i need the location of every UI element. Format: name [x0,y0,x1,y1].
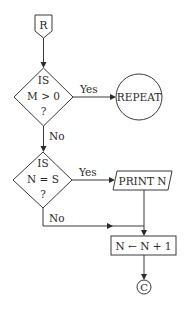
edge-decision2-yes: Yes [72,166,115,183]
start-connector: R [35,15,52,38]
edge-print-to-increment [141,190,147,236]
decision2-line2: N = S [27,173,59,185]
decision2-line3: ? [40,188,46,200]
start-connector-label: R [39,19,48,32]
edge-start-to-decision1 [41,38,47,68]
edge-label-yes: Yes [79,83,98,95]
edge-label-yes: Yes [78,166,97,178]
decision1-line3: ? [41,105,47,117]
decision1-line2: M > 0 [27,90,60,102]
repeat-label: REPEAT [117,91,161,103]
repeat-node: REPEAT [116,74,162,120]
increment-label: N ← N + 1 [115,240,171,252]
decision-n-equals-s: IS N = S ? [13,152,72,208]
end-connector: C [137,280,151,294]
edge-decision1-yes: Yes [73,83,116,100]
increment-node: N ← N + 1 [111,236,176,255]
end-connector-label: C [140,282,148,293]
decision1-line1: IS [38,74,49,86]
edge-decision2-no: No [43,208,144,229]
edge-decision1-no: No [41,126,65,152]
print-label: PRINT N [119,175,167,187]
edge-increment-to-end [141,255,147,280]
decision2-line1: IS [37,157,48,169]
edge-label-no: No [49,212,65,224]
edge-label-no: No [49,130,65,142]
decision-m-greater-zero: IS M > 0 ? [14,68,73,126]
print-node: PRINT N [113,171,172,190]
flowchart: R IS M > 0 ? Yes REPEAT No IS N = S ? [0,0,187,309]
